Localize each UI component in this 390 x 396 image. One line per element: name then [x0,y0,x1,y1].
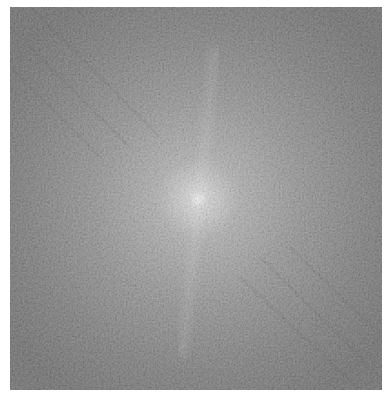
spectrum-graphic [10,7,382,390]
fft-spectrum-image [10,7,382,390]
